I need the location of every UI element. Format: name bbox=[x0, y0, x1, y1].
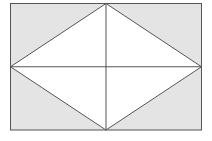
rhombus-diagram bbox=[0, 0, 212, 141]
figure-container bbox=[0, 0, 212, 141]
